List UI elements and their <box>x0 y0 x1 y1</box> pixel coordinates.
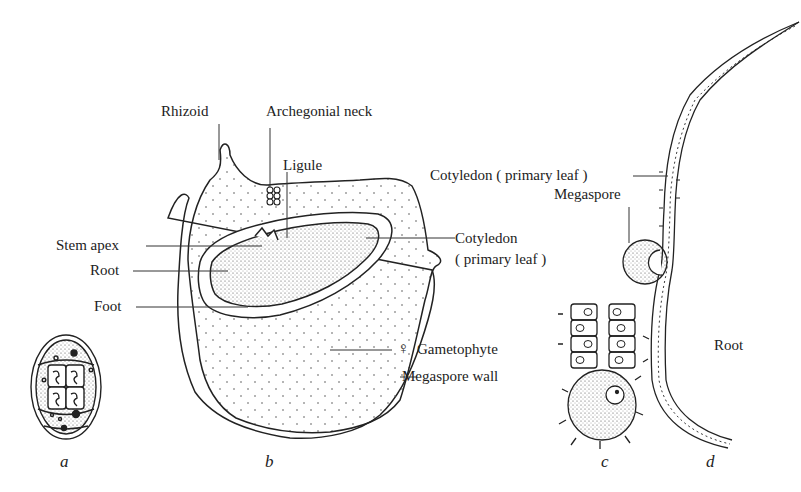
label-cotyledon-d: Cotyledon ( primary leaf ) <box>430 167 587 184</box>
label-archegonial-neck: Archegonial neck <box>266 103 372 120</box>
panel-d-drawing <box>623 22 799 448</box>
panel-d-leader-lines <box>629 176 668 243</box>
label-gametophyte: Gametophyte <box>417 341 498 358</box>
label-stem-apex: Stem apex <box>56 237 119 254</box>
label-megaspore: Megaspore <box>554 186 621 203</box>
label-ligule: Ligule <box>283 157 322 174</box>
label-cotyledon-b-line1: Cotyledon <box>455 230 518 247</box>
botanical-illustration <box>0 0 801 492</box>
label-foot: Foot <box>94 298 122 315</box>
label-root-d: Root <box>714 337 743 354</box>
label-root-b: Root <box>90 262 119 279</box>
label-cotyledon-b-line2: ( primary leaf ) <box>455 251 546 268</box>
label-rhizoid: Rhizoid <box>161 103 209 120</box>
panel-label-d: d <box>706 452 715 472</box>
panel-c-drawing <box>558 304 649 449</box>
female-symbol: ♀ <box>397 340 410 357</box>
panel-b-drawing <box>168 144 441 438</box>
panel-label-c: c <box>601 452 609 472</box>
panel-a-drawing <box>31 335 101 439</box>
panel-label-a: a <box>60 452 69 472</box>
label-megaspore-wall: Megaspore wall <box>402 368 498 385</box>
panel-label-b: b <box>265 452 274 472</box>
